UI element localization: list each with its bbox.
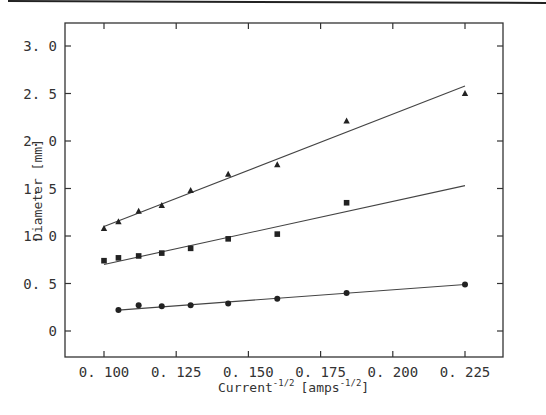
x-axis-label: Current-1/2[amps-1/2]	[218, 378, 369, 395]
series-triangles	[101, 86, 468, 231]
triangle-marker	[135, 208, 141, 214]
x-tick-label: 0. 150	[223, 364, 274, 380]
square-marker	[225, 236, 231, 242]
y-axis: 00. 51. 01. 52. 02. 53. 0	[23, 38, 503, 339]
circle-marker	[188, 302, 194, 308]
triangle-marker	[343, 118, 349, 124]
x-tick-label: 0. 100	[79, 364, 130, 380]
x-tick-label: 0. 125	[151, 364, 202, 380]
triangle-marker	[274, 161, 280, 167]
data-series	[101, 86, 468, 313]
circle-marker	[225, 300, 231, 306]
fit-line	[104, 86, 465, 227]
triangle-marker	[187, 187, 193, 193]
circle-marker	[159, 303, 165, 309]
square-marker	[136, 253, 142, 259]
circle-marker	[462, 281, 468, 287]
y-axis-label: Diameter [mm]	[30, 139, 45, 241]
triangle-marker	[462, 90, 468, 96]
square-marker	[159, 250, 165, 256]
fit-line	[104, 186, 465, 265]
circle-marker	[274, 296, 280, 302]
y-tick-label: 2. 5	[23, 86, 57, 102]
triangle-marker	[225, 171, 231, 177]
y-tick-label: 0. 5	[23, 276, 57, 292]
series-circles	[115, 281, 468, 313]
fit-line	[118, 284, 465, 310]
chart: 0. 1000. 1250. 1500. 1750. 2000. 225 00.…	[0, 0, 546, 415]
circle-marker	[136, 302, 142, 308]
x-tick-label: 0. 200	[368, 364, 419, 380]
x-tick-label: 0. 225	[440, 364, 491, 380]
x-tick-label: 0. 175	[295, 364, 346, 380]
plot-frame	[65, 23, 503, 357]
square-marker	[116, 255, 122, 261]
square-marker	[101, 258, 107, 264]
circle-marker	[344, 290, 350, 296]
y-tick-label: 0	[49, 323, 57, 339]
square-marker	[344, 200, 350, 206]
square-marker	[274, 231, 280, 237]
series-squares	[101, 186, 465, 265]
x-axis: 0. 1000. 1250. 1500. 1750. 2000. 225	[79, 23, 491, 380]
y-tick-label: 3. 0	[23, 38, 57, 54]
circle-marker	[115, 307, 121, 313]
square-marker	[188, 246, 194, 252]
